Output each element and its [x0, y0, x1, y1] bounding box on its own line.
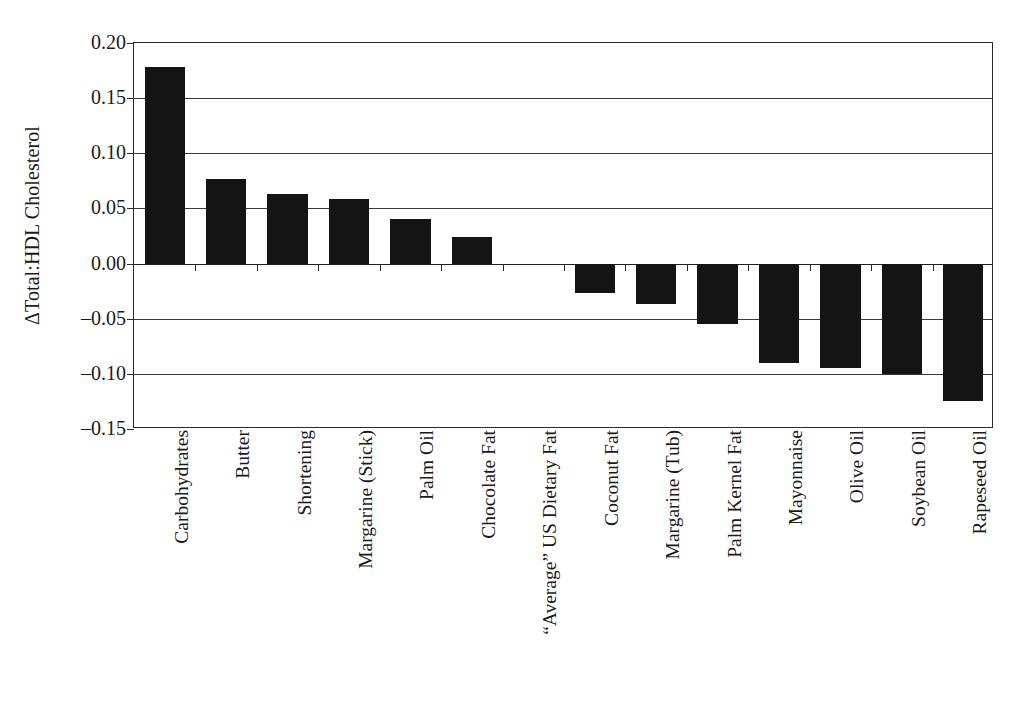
bar	[329, 199, 369, 264]
bar	[636, 264, 676, 305]
bar	[390, 219, 430, 263]
y-tick-label: 0.15	[64, 87, 126, 107]
y-tick-mark	[127, 374, 134, 375]
y-tick-label: –0.10	[64, 363, 126, 383]
x-tick-mark	[933, 264, 934, 271]
bar	[759, 264, 799, 363]
x-tick-mark	[748, 264, 749, 271]
y-tick-mark	[127, 98, 134, 99]
bars-group	[134, 43, 992, 427]
x-tick-label: Chocolate Fat	[479, 430, 499, 539]
x-tick-label: Coconut Fat	[602, 430, 622, 526]
x-tick-label: Palm Oil	[417, 430, 437, 500]
x-tick-mark	[380, 264, 381, 271]
y-tick-label: 0.10	[64, 142, 126, 162]
y-tick-mark	[127, 264, 134, 265]
x-tick-label: Soybean Oil	[909, 430, 929, 527]
x-tick-mark	[625, 264, 626, 271]
x-tick-mark	[687, 264, 688, 271]
y-tick-label: 0.05	[64, 197, 126, 217]
bar	[452, 237, 492, 263]
y-tick-mark	[127, 208, 134, 209]
x-tick-mark	[564, 264, 565, 271]
x-tick-label: Butter	[233, 430, 253, 479]
y-tick-label: 0.00	[64, 253, 126, 273]
bar	[882, 264, 922, 374]
y-axis-tick-labels: 0.200.150.100.050.00–0.05–0.10–0.15	[60, 0, 126, 721]
bar	[145, 67, 185, 263]
bar	[575, 264, 615, 294]
x-tick-mark	[318, 264, 319, 271]
bar	[697, 264, 737, 325]
y-axis-title: ΔTotal:HDL Cholesterol	[21, 106, 44, 346]
x-axis-category-labels: CarbohydratesButterShorteningMargarine (…	[133, 430, 993, 720]
y-tick-label: –0.15	[64, 418, 126, 438]
bar	[943, 264, 983, 402]
y-tick-mark	[127, 319, 134, 320]
x-tick-label: Mayonnaise	[786, 430, 806, 525]
x-tick-mark	[810, 264, 811, 271]
x-tick-label: Rapeseed Oil	[970, 430, 990, 535]
x-tick-mark	[871, 264, 872, 271]
x-tick-label: Olive Oil	[847, 430, 867, 503]
x-tick-label: Margarine (Tub)	[663, 430, 683, 559]
x-tick-label: “Average” US Dietary Fat	[540, 430, 560, 635]
bar-chart: ΔTotal:HDL Cholesterol 0.200.150.100.050…	[0, 0, 1026, 721]
y-tick-label: 0.20	[64, 32, 126, 52]
x-tick-label: Shortening	[295, 430, 315, 516]
x-tick-mark	[441, 264, 442, 271]
bar	[820, 264, 860, 369]
bar	[206, 179, 246, 264]
y-tick-mark	[127, 43, 134, 44]
x-tick-label: Palm Kernel Fat	[725, 430, 745, 558]
x-tick-mark	[257, 264, 258, 271]
y-tick-label: –0.05	[64, 308, 126, 328]
plot-area	[133, 42, 993, 428]
x-tick-label: Carbohydrates	[172, 430, 192, 544]
x-tick-mark	[503, 264, 504, 271]
y-tick-mark	[127, 153, 134, 154]
bar	[267, 194, 307, 263]
x-tick-label: Margarine (Stick)	[356, 430, 376, 569]
x-tick-mark	[195, 264, 196, 271]
